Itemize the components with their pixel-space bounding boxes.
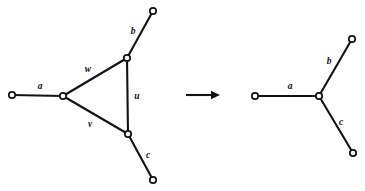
left-graph-edge-label-u: u	[134, 91, 139, 101]
left-graph-edge-label-b: b	[131, 26, 136, 36]
right-graph-edge-label-b: b	[327, 56, 332, 66]
right-graph-node-R3	[349, 36, 355, 42]
left-graph-edge-label-w: w	[85, 64, 92, 74]
right-graph-node-R4	[350, 150, 356, 156]
left-graph-edge-w	[63, 58, 127, 96]
left-graph-node-L1	[9, 92, 15, 98]
left-graph-node-L2	[60, 93, 66, 99]
right-graph-edge-label-c: c	[339, 117, 344, 127]
left-graph-edge-a	[12, 95, 63, 96]
left-graph-edge-label-c: c	[146, 150, 151, 160]
right-graph-edges	[255, 39, 353, 153]
left-graph-node-L3	[124, 55, 130, 61]
graph-transformation-figure: awvubc abc	[0, 0, 365, 191]
arrow-head-icon	[211, 91, 220, 99]
left-graph-edge-u	[127, 58, 128, 134]
left-graph-node-L5	[150, 8, 156, 14]
left-graph-edge-label-a: a	[38, 81, 43, 91]
transformation-arrow	[186, 91, 220, 99]
left-graph-node-L6	[150, 177, 156, 183]
left-graph-edge-label-v: v	[88, 119, 93, 129]
figure-container: awvubc abc	[0, 0, 365, 191]
right-graph-node-R1	[252, 93, 258, 99]
right-graph-edge-c	[319, 96, 353, 153]
right-graph-edge-b	[319, 39, 352, 96]
left-graph-node-L4	[125, 131, 131, 137]
right-graph-node-R2	[316, 93, 322, 99]
right-graph-edge-label-a: a	[288, 81, 293, 91]
left-graph-edge-v	[63, 96, 128, 134]
left-graph: awvubc	[9, 8, 156, 183]
right-graph: abc	[252, 36, 356, 156]
left-graph-edges	[12, 11, 153, 180]
